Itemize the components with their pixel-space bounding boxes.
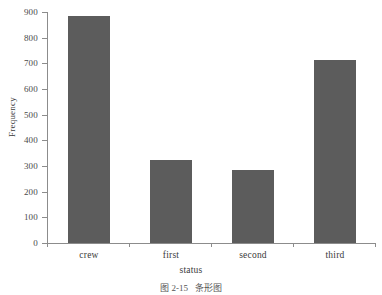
bar-second[interactable]: [232, 170, 274, 243]
x-tick-right-edge: [375, 243, 376, 247]
x-tick-label-first: first: [141, 250, 201, 261]
x-tick-label-crew: crew: [59, 250, 119, 261]
x-tick-label-third: third: [305, 250, 365, 261]
x-tick-3: [293, 243, 294, 247]
figure-container: 0 100 200 300 400 500 600 700 800 900 cr…: [0, 0, 382, 295]
y-tick-500: [42, 115, 47, 116]
figure-caption: 图 2-15 条形图: [0, 283, 382, 294]
y-tick-label-900: 900: [0, 8, 38, 17]
y-tick-label-600: 600: [0, 85, 38, 94]
bar-third[interactable]: [314, 60, 356, 243]
y-tick-700: [42, 63, 47, 64]
y-tick-400: [42, 140, 47, 141]
x-tick-left-edge: [47, 243, 48, 247]
y-tick-100: [42, 217, 47, 218]
y-tick-label-300: 300: [0, 162, 38, 171]
bar-chart: 0 100 200 300 400 500 600 700 800 900 cr…: [0, 0, 382, 295]
y-tick-800: [42, 38, 47, 39]
x-tick-2: [211, 243, 212, 247]
y-tick-900: [42, 12, 47, 13]
x-axis-title: status: [0, 265, 382, 276]
bar-first[interactable]: [150, 160, 192, 243]
y-tick-label-0: 0: [0, 239, 38, 248]
y-axis-title: Frequency: [7, 82, 17, 152]
y-tick-label-100: 100: [0, 213, 38, 222]
bar-crew[interactable]: [68, 16, 110, 243]
y-tick-600: [42, 89, 47, 90]
y-tick-label-400: 400: [0, 136, 38, 145]
y-axis-line: [47, 12, 48, 243]
y-tick-label-500: 500: [0, 111, 38, 120]
y-tick-300: [42, 166, 47, 167]
x-tick-label-second: second: [223, 250, 283, 261]
y-tick-label-800: 800: [0, 34, 38, 43]
y-tick-label-700: 700: [0, 59, 38, 68]
y-tick-200: [42, 192, 47, 193]
x-tick-1: [129, 243, 130, 247]
y-tick-label-200: 200: [0, 188, 38, 197]
